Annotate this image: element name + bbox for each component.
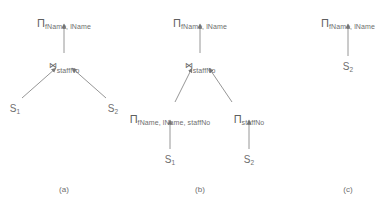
node-c-projection-root: ΠfName, lName bbox=[321, 14, 375, 30]
operator-subscript: 2 bbox=[115, 108, 119, 115]
node-a-projection-root: ΠfName, lName bbox=[37, 14, 91, 30]
operator-symbol: Π bbox=[321, 17, 329, 29]
operator-subscript: staffNo bbox=[242, 119, 265, 126]
node-b-projection-left: ΠfName, lName, staffNo bbox=[130, 110, 211, 126]
operator-subscript: 1 bbox=[172, 159, 176, 166]
node-b-projection-right: ΠstaffNo bbox=[234, 110, 265, 126]
operator-symbol: Π bbox=[37, 17, 45, 29]
operator-subscript: 1 bbox=[17, 108, 21, 115]
operator-subscript: fName, lName, staffNo bbox=[138, 119, 211, 126]
node-b-projection-root: ΠfName, lName bbox=[173, 14, 227, 30]
operator-subscript: 2 bbox=[350, 66, 354, 73]
edges-layer bbox=[0, 0, 384, 206]
operator-symbol: Π bbox=[130, 113, 138, 125]
operator-subscript: fName, lName bbox=[45, 23, 91, 30]
relational-algebra-query-tree-figure: ΠfName, lName⋈staffNoS1S2(a)ΠfName, lNam… bbox=[0, 0, 384, 206]
caption-c: (c) bbox=[343, 186, 352, 194]
operator-symbol: ⋈ bbox=[185, 61, 193, 70]
operator-subscript: 2 bbox=[251, 159, 255, 166]
operator-symbol: S bbox=[10, 103, 17, 114]
operator-symbol: S bbox=[165, 154, 172, 165]
caption-b: (b) bbox=[195, 186, 205, 194]
operator-subscript: fName, lName bbox=[181, 23, 227, 30]
node-b-join: ⋈staffNo bbox=[185, 58, 216, 74]
node-c-relation-s2: S2 bbox=[343, 62, 353, 72]
node-a-relation-s1: S1 bbox=[10, 104, 20, 114]
operator-subscript: fName, lName bbox=[329, 23, 375, 30]
operator-symbol: S bbox=[108, 103, 115, 114]
operator-symbol: ⋈ bbox=[49, 61, 57, 70]
node-a-join: ⋈staffNo bbox=[49, 58, 80, 74]
node-b-relation-s1: S1 bbox=[165, 155, 175, 165]
operator-symbol: Π bbox=[234, 113, 242, 125]
operator-symbol: S bbox=[244, 154, 251, 165]
operator-symbol: S bbox=[343, 61, 350, 72]
operator-subscript: staffNo bbox=[193, 67, 216, 74]
operator-symbol: Π bbox=[173, 17, 181, 29]
node-b-relation-s2: S2 bbox=[244, 155, 254, 165]
operator-subscript: staffNo bbox=[57, 67, 80, 74]
node-a-relation-s2: S2 bbox=[108, 104, 118, 114]
caption-a: (a) bbox=[59, 186, 69, 194]
